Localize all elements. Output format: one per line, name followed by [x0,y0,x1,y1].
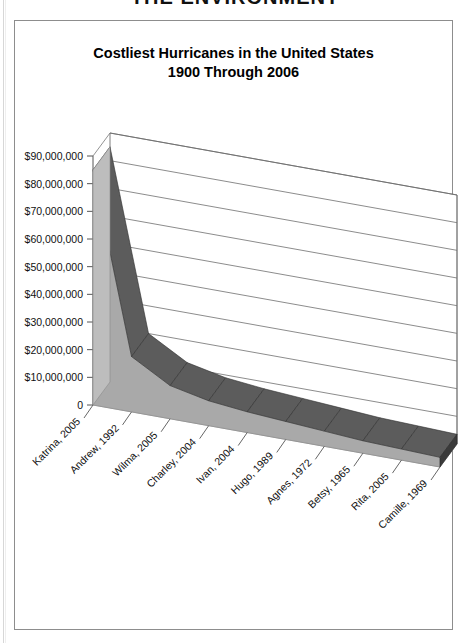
svg-text:$10,000,000: $10,000,000 [25,371,84,383]
svg-text:$90,000,000: $90,000,000 [25,150,84,162]
svg-text:Betsy, 1965: Betsy, 1965 [305,463,352,510]
svg-text:Hugo, 1989: Hugo, 1989 [228,449,275,496]
y-axis-tick-labels: $90,000,000$80,000,000$70,000,000$60,000… [25,150,84,411]
svg-text:$80,000,000: $80,000,000 [25,178,84,190]
svg-text:Agnes, 1972: Agnes, 1972 [264,456,314,506]
svg-text:Wilma, 2005: Wilma, 2005 [110,429,160,479]
svg-text:$40,000,000: $40,000,000 [25,288,84,300]
svg-text:$50,000,000: $50,000,000 [25,261,84,273]
svg-text:Rita, 2005: Rita, 2005 [349,470,391,512]
svg-text:Ivan, 2004: Ivan, 2004 [193,442,236,485]
svg-text:$70,000,000: $70,000,000 [25,205,84,217]
area-chart-3d: $90,000,000$80,000,000$70,000,000$60,000… [0,0,470,643]
svg-text:$60,000,000: $60,000,000 [25,233,84,245]
svg-text:$20,000,000: $20,000,000 [25,344,84,356]
svg-text:$30,000,000: $30,000,000 [25,316,84,328]
svg-text:0: 0 [77,399,83,411]
